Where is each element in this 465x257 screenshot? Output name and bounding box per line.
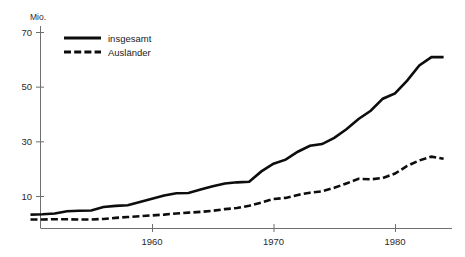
plot-series-group [31, 57, 444, 219]
legend-label-auslaender: Ausländer [108, 47, 151, 58]
y-axis-group: 10305070 [21, 26, 44, 228]
chart-legend: insgesamt Ausländer [64, 33, 152, 58]
line-chart: 10305070 196019701980 Mio. insgesamt Aus… [0, 0, 465, 257]
y-axis-tick-labels: 10305070 [21, 27, 32, 202]
chart-container: 10305070 196019701980 Mio. insgesamt Aus… [0, 0, 465, 257]
x-tick-label-1980: 1980 [384, 236, 405, 247]
x-axis-tick-labels: 196019701980 [141, 236, 405, 247]
x-tick-label-1970: 1970 [263, 236, 284, 247]
series-line-insgesamt [31, 57, 444, 214]
y-tick-label-50: 50 [21, 81, 32, 92]
y-tick-label-10: 10 [21, 191, 32, 202]
y-tick-label-70: 70 [21, 27, 32, 38]
y-axis-unit-label: Mio. [30, 12, 46, 22]
legend-label-insgesamt: insgesamt [108, 33, 152, 44]
y-tick-label-30: 30 [21, 136, 32, 147]
x-axis-group: 196019701980 [41, 224, 453, 247]
x-tick-label-1960: 1960 [141, 236, 162, 247]
